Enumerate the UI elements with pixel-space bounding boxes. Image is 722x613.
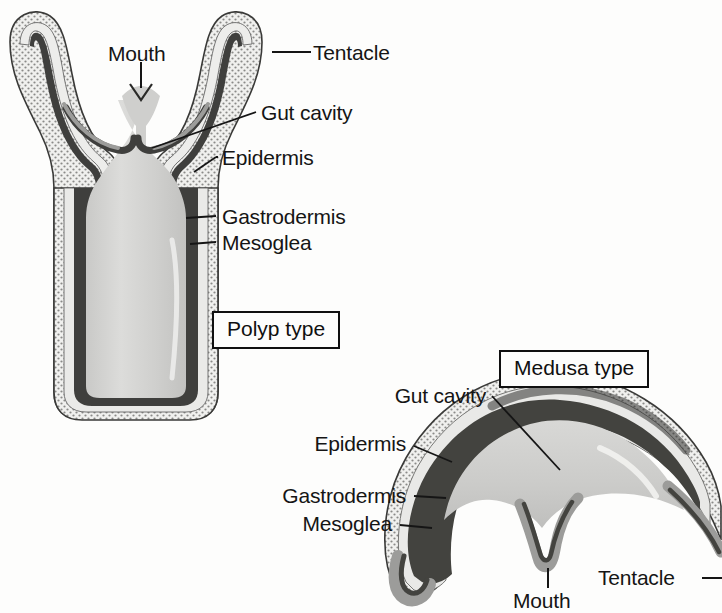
polyp-label-tentacle: Tentacle	[313, 41, 390, 65]
polyp-label-mouth: Mouth	[108, 42, 165, 66]
polyp-label-epidermis: Epidermis	[222, 146, 314, 170]
medusa-label-mouth: Mouth	[513, 589, 570, 613]
medusa-label-gut-cavity: Gut cavity	[258, 384, 486, 408]
medusa-label-mesoglea: Mesoglea	[178, 512, 392, 536]
figure-canvas: Mouth Tentacle Gut cavity Epidermis Gast…	[0, 0, 722, 613]
medusa-label-epidermis: Epidermis	[198, 432, 406, 456]
polyp-label-gut-cavity: Gut cavity	[261, 101, 352, 125]
polyp-label-mesoglea: Mesoglea	[222, 231, 311, 255]
polyp-label-gastrodermis: Gastrodermis	[222, 205, 346, 229]
medusa-type-box: Medusa type	[499, 350, 649, 388]
medusa-label-tentacle: Tentacle	[598, 566, 675, 590]
polyp-type-box: Polyp type	[212, 311, 340, 349]
medusa-label-gastrodermis: Gastrodermis	[178, 484, 406, 508]
